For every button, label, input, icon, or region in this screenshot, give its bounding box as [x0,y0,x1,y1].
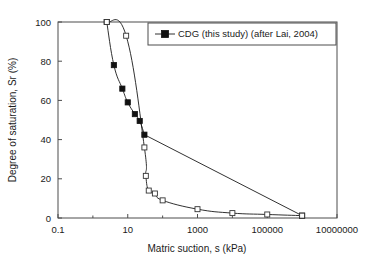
data-point-filled-square [132,112,137,117]
x-tick-label: 1000 [187,224,208,235]
data-point-open-square [265,212,270,217]
data-point-open-square [160,198,165,203]
data-point-open-square [230,211,235,216]
y-axis-title: Degree of saturation, Sr (%) [7,58,18,183]
chart-canvas: 0.110100010000010000000 020406080100 Mat… [0,0,379,265]
y-axis-tick-labels: 020406080100 [35,17,51,224]
y-tick-label: 100 [35,17,51,28]
data-point-filled-square [120,86,125,91]
y-tick-label: 60 [40,95,51,106]
data-point-open-square [142,145,147,150]
x-tick-label: 100000 [251,224,283,235]
y-tick-label: 0 [46,213,51,224]
data-point-open-square [143,173,148,178]
chart-legend: CDG (this study) (after Lai, 2004) [148,23,336,45]
y-tick-label: 80 [40,56,51,67]
data-point-open-square [124,33,129,38]
data-point-filled-square [111,63,116,68]
x-axis-tick-labels: 0.110100010000010000000 [51,224,358,235]
x-tick-label: 10 [122,224,133,235]
data-point-open-square [146,188,151,193]
data-point-open-square [104,20,109,25]
data-point-filled-square [125,100,130,105]
x-tick-label: 0.1 [51,224,64,235]
y-tick-label: 40 [40,134,51,145]
data-point-open-square [152,191,157,196]
x-tick-label: 10000000 [316,224,358,235]
data-point-open-square [195,207,200,212]
swcc-chart: 0.110100010000010000000 020406080100 Mat… [0,0,379,265]
data-point-open-square [300,213,305,218]
legend-filled-square-icon [162,31,169,38]
plot-area-frame [58,22,337,218]
legend-entry-label: CDG (this study) (after Lai, 2004) [178,28,318,39]
y-tick-label: 20 [40,173,51,184]
x-axis-title: Matric suction, s (kPa) [148,243,247,254]
